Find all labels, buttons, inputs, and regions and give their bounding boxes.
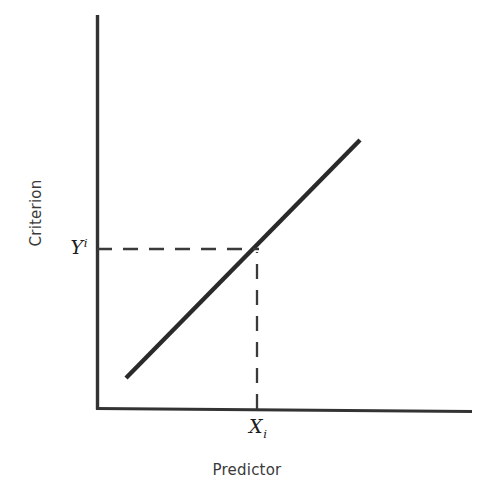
x-axis-title: Predictor: [213, 461, 282, 479]
x-value-label: Xi: [249, 415, 267, 441]
y-value-superscript: i: [83, 236, 87, 250]
y-value-label: Yi: [71, 236, 88, 258]
x-value-base: X: [249, 415, 263, 437]
x-value-subscript: i: [263, 427, 267, 441]
y-value-base: Y: [71, 236, 84, 258]
y-axis-title: Criterion: [27, 180, 45, 247]
